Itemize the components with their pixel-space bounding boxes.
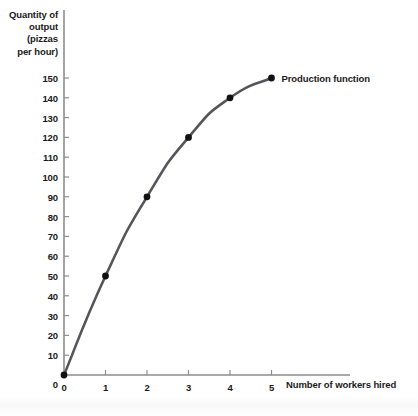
y-tick-label: 10 [28, 350, 58, 361]
chart-tick-marks [64, 78, 272, 375]
y-tick-label: 130 [28, 112, 58, 123]
scan-bleed-artifact [0, 396, 418, 416]
production-function-chart: Quantity of output (pizzas per hour) Num… [0, 0, 418, 416]
y-tick-label: 20 [28, 330, 58, 341]
y-tick-label: 100 [28, 172, 58, 183]
y-tick-label: 150 [28, 73, 58, 84]
y-tick-label: 70 [28, 231, 58, 242]
y-tick-label: 110 [28, 152, 58, 163]
chart-plot-area [0, 0, 418, 416]
y-tick-label: 90 [28, 191, 58, 202]
y-tick-label: 60 [28, 251, 58, 262]
y-tick-label: 50 [28, 271, 58, 282]
x-tick-label: 5 [262, 382, 282, 393]
y-tick-label: 120 [28, 132, 58, 143]
data-point-markers [61, 75, 275, 379]
x-tick-label: 3 [179, 382, 199, 393]
x-tick-label: 0 [54, 382, 74, 393]
y-axis-title: Quantity of output (pizzas per hour) [2, 9, 58, 58]
x-tick-label: 1 [96, 382, 116, 393]
y-tick-label: 30 [28, 310, 58, 321]
y-tick-label: 80 [28, 211, 58, 222]
chart-axes [64, 10, 350, 375]
x-tick-label: 2 [137, 382, 157, 393]
x-axis-title: Number of workers hired [286, 379, 396, 391]
production-function-line [64, 78, 272, 375]
series-label-production-function: Production function [282, 73, 370, 84]
y-tick-label: 40 [28, 290, 58, 301]
y-tick-label: 140 [28, 92, 58, 103]
x-tick-label: 4 [220, 382, 240, 393]
